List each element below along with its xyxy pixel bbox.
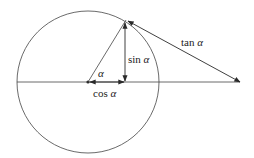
radius-line [88, 20, 126, 82]
tan-arrow [128, 21, 240, 82]
sin-text: sin [128, 53, 144, 65]
unit-circle-diagram: α sin α cos α tan α [0, 0, 254, 158]
cos-label: cos α [93, 87, 116, 99]
sin-label: sin α [128, 53, 150, 65]
tan-text: tan [181, 36, 197, 48]
tan-alpha: α [197, 36, 203, 48]
cos-alpha: α [110, 87, 116, 99]
sin-alpha: α [144, 53, 150, 65]
cos-text: cos [93, 87, 110, 99]
alpha-label: α [98, 67, 104, 79]
tan-label: tan α [181, 36, 203, 48]
